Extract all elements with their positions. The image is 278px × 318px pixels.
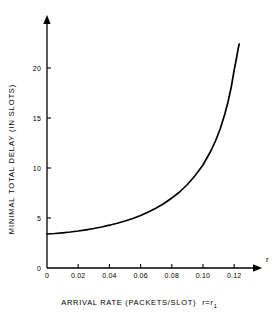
caption-condition-subscript: 1: [214, 302, 217, 308]
x-axis-arrowhead: [253, 264, 262, 271]
figure-caption: ARRIVAL RATE (PACKETS/SLOT)r=r1: [0, 298, 278, 309]
chart-plot-area: [0, 0, 278, 318]
y-tick-label: 0: [24, 265, 41, 272]
x-tick-label: 0.12: [227, 272, 241, 279]
caption-main-text: ARRIVAL RATE (PACKETS/SLOT): [61, 298, 196, 307]
delay-vs-arrival-rate-figure: 00.020.040.060.080.100.12 05101520 MINIM…: [0, 0, 278, 318]
caption-condition: r=r: [202, 298, 213, 307]
y-tick-label: 5: [24, 215, 41, 222]
y-axis-arrowhead: [43, 15, 50, 24]
y-tick-label: 10: [24, 165, 41, 172]
y-tick-label: 20: [24, 65, 41, 72]
x-tick-label: 0: [45, 272, 49, 279]
x-axis-variable-label: r: [266, 255, 269, 264]
y-tick-label: 15: [24, 115, 41, 122]
x-tick-label: 0.10: [196, 272, 210, 279]
x-tick-label: 0.06: [133, 272, 147, 279]
delay-curve: [47, 44, 239, 234]
x-tick-label: 0.08: [165, 272, 179, 279]
x-tick-label: 0.02: [71, 272, 85, 279]
y-axis-title: MINIMAL TOTAL DELAY (IN SLOTS): [7, 54, 16, 264]
x-tick-label: 0.04: [102, 272, 116, 279]
